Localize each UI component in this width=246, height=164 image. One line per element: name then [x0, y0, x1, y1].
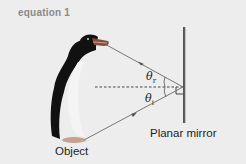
mirror-label: Planar mirror — [150, 127, 216, 139]
object-label: Object — [55, 145, 88, 157]
reflection-diagram — [0, 0, 246, 164]
penguin-object-icon — [51, 35, 109, 143]
angle-incidence-label: θi — [145, 92, 154, 107]
reflected-ray — [103, 43, 183, 87]
angle-reflection-label: θr — [146, 70, 156, 85]
diagram-frame: equation 1 — [0, 0, 246, 164]
